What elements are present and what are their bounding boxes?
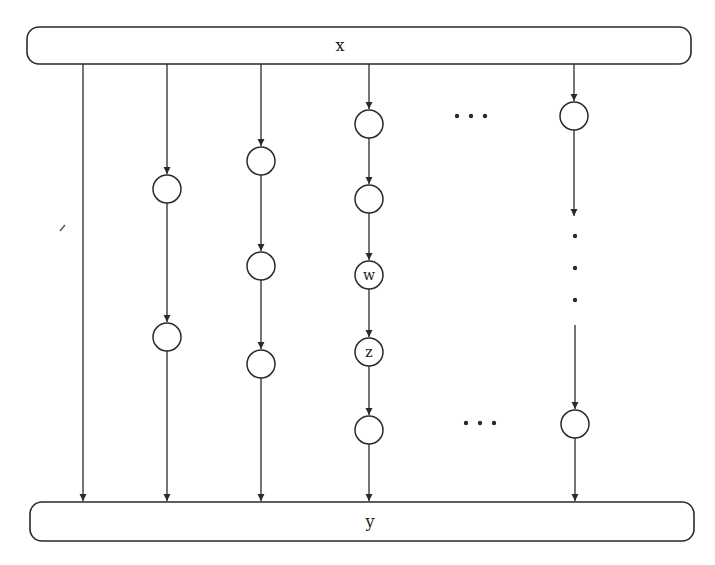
path-node: [153, 323, 181, 351]
path-column-3: [247, 64, 275, 501]
sink-node-y: y: [30, 502, 694, 541]
source-node-x: x: [27, 27, 691, 64]
vertical-ellipsis: [573, 234, 577, 302]
horizontal-ellipsis-bottom: [464, 421, 496, 425]
path-node: [560, 102, 588, 130]
path-column-4: w z: [355, 64, 383, 501]
path-node: [153, 175, 181, 203]
path-node: [355, 416, 383, 444]
source-label: x: [335, 36, 344, 55]
sink-label: y: [364, 512, 374, 531]
horizontal-ellipsis-top: [455, 114, 487, 118]
source-box: [27, 27, 691, 64]
node-w-label: w: [363, 267, 375, 283]
diagram-canvas: x y w: [0, 0, 715, 565]
sink-box: [30, 502, 694, 541]
node-z: z: [355, 338, 383, 366]
path-column-last: [560, 64, 589, 501]
path-node: [247, 147, 275, 175]
path-column-2: [153, 64, 181, 501]
node-w: w: [355, 261, 383, 289]
path-node: [561, 410, 589, 438]
path-node: [247, 350, 275, 378]
path-node: [355, 110, 383, 138]
scan-artifact-mark: [60, 225, 65, 231]
node-z-label: z: [365, 344, 372, 360]
path-node: [247, 252, 275, 280]
path-node: [355, 185, 383, 213]
